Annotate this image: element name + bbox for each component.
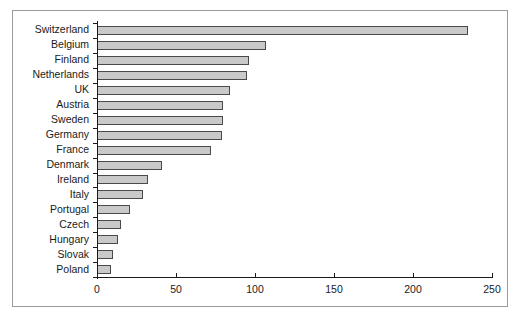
y-axis-tick <box>93 53 97 54</box>
bar <box>97 131 222 140</box>
y-axis-tick <box>93 277 97 278</box>
category-label: France <box>56 144 89 155</box>
chart-frame: SwitzerlandBelgiumFinlandNetherlandsUKAu… <box>12 10 508 307</box>
category-label: Belgium <box>51 39 89 50</box>
category-label: Portugal <box>50 204 89 215</box>
x-axis-tick-label: 150 <box>325 283 343 295</box>
category-label: Netherlands <box>32 69 89 80</box>
category-axis-labels: SwitzerlandBelgiumFinlandNetherlandsUKAu… <box>13 11 89 306</box>
category-label: Finland <box>55 54 89 65</box>
x-axis-tick <box>176 273 177 277</box>
bar <box>97 86 230 95</box>
y-axis-tick <box>93 98 97 99</box>
y-axis-tick <box>93 247 97 248</box>
bar <box>97 265 111 274</box>
y-axis-tick <box>93 158 97 159</box>
category-label: Czech <box>59 219 89 230</box>
y-axis-tick <box>93 83 97 84</box>
x-axis-tick <box>334 273 335 277</box>
category-label: Switzerland <box>35 24 89 35</box>
y-axis-tick <box>93 187 97 188</box>
x-axis-tick <box>97 273 98 277</box>
category-label: UK <box>74 84 89 95</box>
category-label: Austria <box>56 99 89 110</box>
category-label: Poland <box>56 264 89 275</box>
bar <box>97 116 223 125</box>
y-axis-line <box>97 21 98 279</box>
x-axis-tick <box>492 273 493 277</box>
y-axis-tick <box>93 23 97 24</box>
bar <box>97 71 247 80</box>
x-axis-tick-label: 0 <box>94 283 100 295</box>
bar <box>97 250 113 259</box>
y-axis-tick <box>93 128 97 129</box>
bar <box>97 205 130 214</box>
bar <box>97 235 118 244</box>
x-axis-tick <box>413 273 414 277</box>
x-axis-tick-label: 100 <box>246 283 264 295</box>
bar <box>97 26 468 35</box>
bar <box>97 146 211 155</box>
bar <box>97 220 121 229</box>
y-axis-tick <box>93 38 97 39</box>
bar <box>97 190 143 199</box>
bar-chart-plot: SwitzerlandBelgiumFinlandNetherlandsUKAu… <box>13 11 507 306</box>
x-axis-tick-label: 50 <box>170 283 182 295</box>
x-axis-line <box>97 277 493 278</box>
bar <box>97 175 148 184</box>
category-label: Slovak <box>57 249 89 260</box>
category-label: Germany <box>46 129 89 140</box>
y-axis-tick <box>93 113 97 114</box>
y-axis-tick <box>93 262 97 263</box>
bar <box>97 101 223 110</box>
category-label: Sweden <box>51 114 89 125</box>
y-axis-tick <box>93 202 97 203</box>
category-label: Denmark <box>46 159 89 170</box>
category-label: Ireland <box>57 174 89 185</box>
y-axis-tick <box>93 68 97 69</box>
bar <box>97 41 266 50</box>
x-axis-tick-label: 200 <box>404 283 422 295</box>
category-label: Italy <box>70 189 89 200</box>
y-axis-tick <box>93 173 97 174</box>
y-axis-tick <box>93 143 97 144</box>
y-axis-tick <box>93 217 97 218</box>
x-axis-tick <box>255 273 256 277</box>
category-label: Hungary <box>49 234 89 245</box>
bar <box>97 161 162 170</box>
bar <box>97 56 249 65</box>
x-axis-tick-label: 250 <box>483 283 501 295</box>
y-axis-tick <box>93 232 97 233</box>
bars-container <box>97 11 507 306</box>
